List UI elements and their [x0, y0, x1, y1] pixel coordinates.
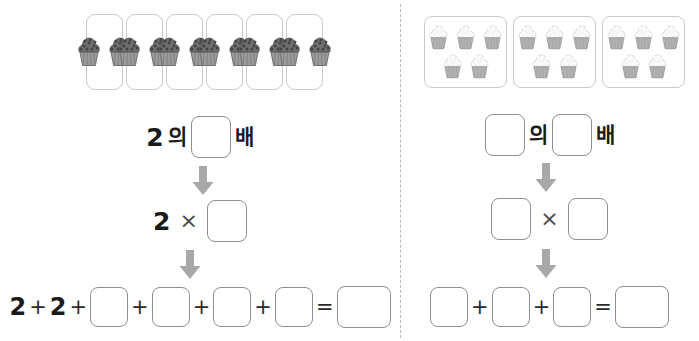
answer-blank-box[interactable]	[615, 286, 669, 328]
number-literal: 2	[50, 295, 67, 319]
number-literal: 2	[146, 125, 163, 150]
operator-symbol: +	[29, 297, 47, 318]
korean-particle-label: 배	[596, 125, 615, 146]
cupcake-vanilla-icon	[529, 52, 554, 81]
cupcake-vanilla-icon	[515, 23, 540, 52]
cupcake-vanilla-icon	[426, 23, 451, 52]
answer-blank-box[interactable]	[207, 200, 247, 242]
cupcake-row	[428, 52, 503, 81]
right-addition-expression: ++=	[400, 286, 699, 328]
answer-blank-box[interactable]	[430, 287, 468, 327]
cupcake-chocolate-icon	[274, 35, 304, 69]
answer-blank-box[interactable]	[492, 287, 530, 327]
number-literal: 2	[9, 295, 26, 319]
cupcake-vanilla-icon	[618, 52, 643, 81]
worksheet-page: 2의배 2× 2+2++++= 의배 × ++=	[0, 0, 699, 341]
korean-particle-label: 의	[529, 125, 548, 146]
cupcake-group	[424, 16, 507, 88]
left-addition-expression: 2+2++++=	[0, 286, 400, 328]
operator-symbol: ×	[179, 210, 197, 232]
cupcake-row	[517, 23, 592, 52]
down-arrow-icon	[191, 166, 215, 196]
cupcake-vanilla-icon	[542, 23, 567, 52]
down-arrow-icon	[178, 250, 202, 280]
cupcake-vanilla-icon	[453, 23, 478, 52]
operator-symbol: +	[193, 297, 211, 318]
cupcake-vanilla-icon	[658, 23, 683, 52]
cupcake-group	[286, 14, 323, 90]
down-arrow-icon	[534, 163, 558, 193]
cupcake-vanilla-icon	[645, 52, 670, 81]
cupcake-vanilla-icon	[569, 23, 594, 52]
cupcake-vanilla-icon	[631, 23, 656, 52]
right-multiplication-expression: ×	[400, 198, 699, 240]
cupcake-chocolate-icon	[234, 35, 264, 69]
answer-blank-box[interactable]	[213, 287, 251, 327]
answer-blank-box[interactable]	[568, 198, 608, 240]
operator-symbol: +	[533, 297, 551, 318]
cupcake-row	[517, 52, 592, 81]
left-multiplication-expression: 2×	[0, 200, 400, 242]
answer-blank-box[interactable]	[90, 287, 128, 327]
left-problem-panel: 2의배 2× 2+2++++=	[0, 0, 400, 341]
operator-symbol: ×	[540, 208, 558, 230]
answer-blank-box[interactable]	[552, 114, 592, 156]
left-cupcake-groups	[86, 14, 323, 90]
cupcake-vanilla-icon	[604, 23, 629, 52]
right-problem-panel: 의배 × ++=	[400, 0, 699, 341]
cupcake-row	[606, 23, 681, 52]
cupcake-row	[606, 52, 681, 81]
korean-particle-label: 배	[235, 127, 254, 148]
cupcake-vanilla-icon	[556, 52, 581, 81]
operator-symbol: =	[594, 297, 612, 318]
cupcake-chocolate-icon	[194, 35, 224, 69]
left-korean-expression: 2의배	[0, 116, 400, 158]
down-arrow-icon	[534, 249, 558, 279]
right-cupcake-groups	[424, 16, 685, 88]
operator-symbol: =	[316, 297, 334, 318]
cupcake-group	[602, 16, 685, 88]
cupcake-row	[428, 23, 503, 52]
cupcake-chocolate-icon	[74, 35, 104, 69]
cupcake-vanilla-icon	[480, 23, 505, 52]
right-korean-expression: 의배	[400, 114, 699, 156]
cupcake-chocolate-icon	[114, 35, 144, 69]
answer-blank-box[interactable]	[191, 116, 231, 158]
number-literal: 2	[153, 209, 170, 234]
answer-blank-box[interactable]	[553, 287, 591, 327]
operator-symbol: +	[471, 297, 489, 318]
cupcake-chocolate-icon	[154, 35, 184, 69]
korean-particle-label: 의	[168, 127, 187, 148]
cupcake-chocolate-icon	[305, 35, 335, 69]
operator-symbol: +	[254, 297, 272, 318]
cupcake-group	[513, 16, 596, 88]
answer-blank-box[interactable]	[491, 198, 531, 240]
operator-symbol: +	[69, 297, 87, 318]
operator-symbol: +	[131, 297, 149, 318]
answer-blank-box[interactable]	[275, 287, 313, 327]
answer-blank-box[interactable]	[337, 286, 391, 328]
answer-blank-box[interactable]	[152, 287, 190, 327]
cupcake-vanilla-icon	[467, 52, 492, 81]
answer-blank-box[interactable]	[485, 114, 525, 156]
cupcake-vanilla-icon	[440, 52, 465, 81]
